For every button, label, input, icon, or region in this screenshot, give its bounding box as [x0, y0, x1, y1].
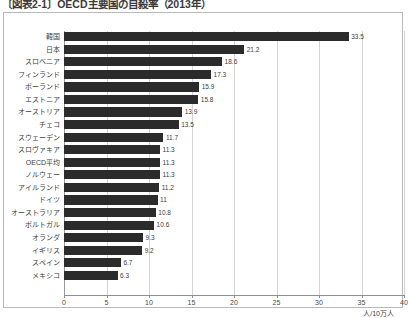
bar-row[interactable]: オランダ9.3	[64, 232, 404, 245]
bar-row[interactable]: アイルランド11.2	[64, 182, 404, 195]
bar-row[interactable]: ポーランド15.9	[64, 81, 404, 94]
bar-row[interactable]: 日本21.2	[64, 44, 404, 57]
bar-row[interactable]: イギリス9.2	[64, 245, 404, 258]
bar-row[interactable]: スロベニア18.6	[64, 56, 404, 69]
category-label: イギリス	[32, 245, 60, 258]
x-tick-label-5: 5	[105, 299, 109, 306]
bar-value-label: 10.6	[157, 219, 170, 232]
bar-row[interactable]: オーストリア13.9	[64, 106, 404, 119]
x-tick-label-30: 30	[315, 299, 323, 306]
x-axis-unit-label: 人/10万人	[363, 308, 394, 318]
bar-value-label: 33.5	[351, 31, 364, 44]
bar-value-label: 6.3	[120, 270, 129, 283]
category-label: オランダ	[32, 232, 60, 245]
bar-row[interactable]: フィンランド17.3	[64, 69, 404, 82]
bar-value-label: 11.3	[163, 157, 175, 170]
x-tick-label-35: 35	[358, 299, 366, 306]
bar-row[interactable]: OECD平均11.3	[64, 157, 404, 170]
bar-value-label: 11.3	[163, 144, 175, 157]
bar-value-label: 17.3	[214, 69, 227, 82]
x-tick-label-20: 20	[230, 299, 238, 306]
category-label: アイルランド	[18, 182, 60, 195]
category-label: 韓国	[46, 31, 60, 44]
bar[interactable]	[64, 145, 160, 154]
bar-value-label: 13.5	[181, 119, 194, 132]
plot-area: 韓国33.5日本21.2スロベニア18.6フィンランド17.3ポーランド15.9…	[64, 31, 404, 295]
bar-row[interactable]: オーストラリア10.8	[64, 207, 404, 220]
bar[interactable]	[64, 82, 199, 91]
bar[interactable]	[64, 208, 156, 217]
bar[interactable]	[64, 120, 179, 129]
category-label: オーストラリア	[11, 207, 60, 220]
bar-value-label: 11.3	[163, 169, 175, 182]
category-label: フィンランド	[18, 69, 60, 82]
bar-row[interactable]: ドイツ11	[64, 194, 404, 207]
bar[interactable]	[64, 170, 160, 179]
bar[interactable]	[64, 158, 160, 167]
category-label: ドイツ	[39, 194, 60, 207]
x-tick-30	[319, 295, 320, 298]
x-tick-15	[192, 295, 193, 298]
bar[interactable]	[64, 221, 154, 230]
bar-value-label: 11.7	[166, 132, 178, 145]
x-tick-label-15: 15	[188, 299, 196, 306]
bar-row[interactable]: スペイン6.7	[64, 257, 404, 270]
bar[interactable]	[64, 57, 222, 66]
bar-value-label: 11.2	[162, 182, 174, 195]
x-tick-20	[234, 295, 235, 298]
bar[interactable]	[64, 45, 244, 54]
bar-value-label: 11	[160, 194, 167, 207]
bar[interactable]	[64, 258, 121, 267]
bar[interactable]	[64, 233, 143, 242]
category-label: OECD平均	[26, 157, 60, 170]
x-tick-label-0: 0	[62, 299, 66, 306]
bar-value-label: 6.7	[123, 257, 132, 270]
category-label: スロベニア	[25, 56, 60, 69]
bar-row[interactable]: 韓国33.5	[64, 31, 404, 44]
bar-series: 韓国33.5日本21.2スロベニア18.6フィンランド17.3ポーランド15.9…	[64, 31, 404, 295]
x-tick-25	[277, 295, 278, 298]
bar-value-label: 9.2	[145, 245, 154, 258]
x-tick-40	[404, 295, 405, 298]
category-label: チェコ	[39, 119, 60, 132]
bar-row[interactable]: エストニア15.8	[64, 94, 404, 107]
x-tick-35	[362, 295, 363, 298]
category-label: オーストリア	[18, 106, 60, 119]
category-label: スロヴァキア	[18, 144, 60, 157]
x-axis: 0510152025303540	[64, 295, 404, 296]
bar-row[interactable]: ポルトガル10.6	[64, 219, 404, 232]
bar[interactable]	[64, 107, 182, 116]
bar-value-label: 10.8	[158, 207, 171, 220]
bar[interactable]	[64, 32, 349, 41]
bar-value-label: 13.9	[185, 106, 198, 119]
bar-row[interactable]: スロヴァキア11.3	[64, 144, 404, 157]
x-tick-0	[64, 295, 65, 298]
x-tick-label-40: 40	[400, 299, 408, 306]
category-label: ポルトガル	[25, 219, 60, 232]
chart-title: 〔図表2-1〕OECD主要国の自殺率（2013年）	[2, 0, 406, 11]
category-label: ノルウェー	[25, 169, 60, 182]
x-tick-10	[149, 295, 150, 298]
bar[interactable]	[64, 195, 158, 204]
category-label: ポーランド	[25, 81, 60, 94]
bar[interactable]	[64, 70, 211, 79]
bar-value-label: 18.6	[225, 56, 238, 69]
category-label: エストニア	[25, 94, 60, 107]
bar-row[interactable]: チェコ13.5	[64, 119, 404, 132]
bar[interactable]	[64, 183, 159, 192]
bar[interactable]	[64, 271, 118, 280]
x-tick-label-25: 25	[273, 299, 281, 306]
bar[interactable]	[64, 133, 163, 142]
bar-value-label: 15.9	[202, 81, 215, 94]
bar-row[interactable]: ノルウェー11.3	[64, 169, 404, 182]
x-tick-label-10: 10	[145, 299, 153, 306]
x-tick-5	[107, 295, 108, 298]
bar-value-label: 21.2	[247, 44, 260, 57]
gridline-40	[404, 31, 405, 295]
bar[interactable]	[64, 95, 198, 104]
bar-row[interactable]: スウェーデン11.7	[64, 132, 404, 145]
bar-row[interactable]: メキシコ6.3	[64, 270, 404, 283]
chart-frame: 韓国33.5日本21.2スロベニア18.6フィンランド17.3ポーランド15.9…	[3, 12, 403, 308]
category-label: メキシコ	[32, 270, 60, 283]
bar[interactable]	[64, 246, 142, 255]
